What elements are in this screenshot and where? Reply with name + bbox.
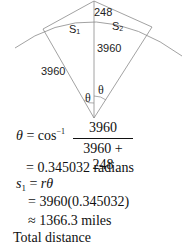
arc-s1-subscript: 1 bbox=[76, 28, 80, 35]
equals: = bbox=[26, 176, 41, 191]
radius-center-label: 3960 bbox=[97, 43, 121, 54]
theta-symbol: θ bbox=[16, 128, 23, 143]
arc-s2-label: S2 bbox=[112, 21, 123, 32]
theta-value-line: = 0.345032 radians bbox=[26, 161, 134, 175]
fraction-numerator: 3960 bbox=[73, 120, 133, 138]
angle-right-label: θ bbox=[98, 84, 104, 96]
result-line: ≈ 1366.3 miles bbox=[28, 214, 112, 228]
arc-length-formula: s1 = rθ bbox=[16, 177, 53, 193]
earth-tangent-diagram bbox=[0, 0, 182, 125]
cos-function: = cos bbox=[23, 128, 57, 143]
angle-left-label: θ bbox=[85, 92, 91, 104]
substitution-line: = 3960(0.345032) bbox=[28, 195, 129, 209]
arc-s1-label: S1 bbox=[69, 24, 80, 35]
theta-equation: θ = cos−1 bbox=[16, 128, 65, 143]
height-label: 248 bbox=[94, 7, 112, 18]
arc-s2-subscript: 2 bbox=[119, 25, 123, 32]
inverse-superscript: −1 bbox=[56, 127, 65, 136]
radius-right bbox=[94, 27, 152, 118]
theta-symbol-2: θ bbox=[46, 176, 53, 191]
total-distance-heading: Total distance bbox=[13, 231, 91, 245]
radius-left-label: 3960 bbox=[41, 66, 65, 77]
